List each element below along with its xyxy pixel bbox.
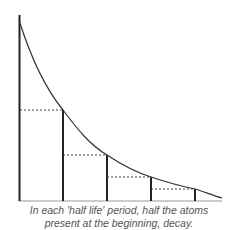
caption-line-1: In each 'half life' period, half the ato…	[0, 204, 238, 217]
caption-line-2: present at the beginning, decay.	[0, 217, 238, 230]
half-life-diagram: In each 'half life' period, half the ato…	[0, 0, 238, 230]
decay-plot	[0, 0, 238, 204]
decay-curve	[19, 20, 222, 198]
caption: In each 'half life' period, half the ato…	[0, 204, 238, 230]
